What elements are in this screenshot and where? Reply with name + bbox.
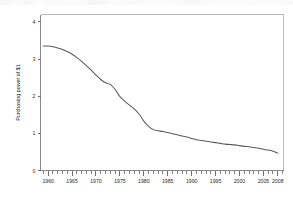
data-line-purchasing-power	[43, 46, 277, 153]
y-axis-tick-label: 3	[33, 56, 36, 62]
x-axis-tick-label: 1965	[66, 178, 78, 184]
x-axis-tick-label: 2005	[258, 178, 270, 184]
x-axis-tick-label: 1980	[138, 178, 150, 184]
x-axis-tick-label: 2008	[272, 178, 284, 184]
plot-frame	[41, 15, 284, 171]
line-chart: 01234 1960196519701975198019851990199520…	[0, 0, 293, 198]
x-axis-tick-labels: 1960196519701975198019851990199520002005…	[42, 178, 283, 184]
x-axis-tick-label: 1985	[162, 178, 174, 184]
y-axis-tick-label: 1	[33, 130, 36, 136]
y-axis-tick-label: 4	[33, 19, 36, 25]
x-axis-tick-label: 2000	[234, 178, 246, 184]
chart-figure: 01234 1960196519701975198019851990199520…	[0, 0, 293, 198]
x-axis-tick-label: 1975	[114, 178, 126, 184]
y-axis-tick-label: 0	[33, 168, 36, 174]
x-axis-tick-label: 1990	[186, 178, 198, 184]
axis-titles: Purchasing power of $1	[15, 64, 21, 121]
x-axis-tick-label: 1960	[42, 178, 54, 184]
y-axis-tick-label: 2	[33, 93, 36, 99]
data-series-group	[43, 46, 277, 153]
y-axis-title: Purchasing power of $1	[15, 64, 21, 121]
y-axis-tick-labels: 01234	[33, 19, 36, 174]
x-axis-tick-label: 1970	[90, 178, 102, 184]
x-axis-tick-label: 1995	[210, 178, 222, 184]
